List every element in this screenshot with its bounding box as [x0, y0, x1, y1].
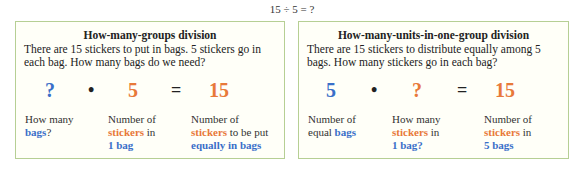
keyword-stickers: stickers: [484, 126, 520, 138]
label-line: stickers in: [392, 126, 441, 139]
label-line: Number of: [308, 113, 356, 126]
label-product: Number of stickers to be put equally in …: [191, 113, 268, 152]
keyword-1-bag: 1 bag?: [392, 139, 441, 152]
keyword-bags: bags: [335, 126, 356, 138]
product: 15: [209, 77, 229, 103]
label-line: stickers in: [484, 126, 532, 139]
label-factor-a: How many bags?: [25, 113, 74, 139]
keyword-5-bags: 5 bags: [484, 139, 532, 152]
equation-row: 5 • ? = 15: [299, 77, 568, 103]
equation-row: ? • 5 = 15: [16, 77, 284, 103]
product: 15: [495, 77, 515, 103]
label-factor-b: How many stickers in 1 bag?: [392, 113, 441, 152]
label-factor-b: Number of stickers in 1 bag: [108, 113, 156, 152]
label-line: stickers to be put: [191, 126, 268, 139]
how-many-groups-box: How-many-groups division There are 15 st…: [15, 21, 285, 159]
label-rest: in: [520, 126, 531, 138]
label-factor-a: Number of equal bags: [308, 113, 356, 139]
keyword-bags: bags: [25, 126, 46, 138]
label-line: bags?: [25, 126, 74, 139]
label-line: How many: [25, 113, 74, 126]
label-line: equal bags: [308, 126, 356, 139]
label-rest: in: [144, 126, 155, 138]
how-many-units-in-one-group-box: How-many-units-in-one-group division The…: [298, 21, 569, 159]
equals-sign: =: [171, 77, 181, 103]
keyword-stickers: stickers: [108, 126, 144, 138]
label-pre: equal: [308, 126, 335, 138]
label-line: Number of: [484, 113, 532, 126]
unknown-factor: ?: [412, 77, 422, 103]
label-line: stickers in: [108, 126, 156, 139]
equals-sign: =: [457, 77, 467, 103]
label-line: Number of: [191, 113, 268, 126]
known-factor: 5: [326, 77, 336, 103]
word-problem-text: There are 15 stickers to put in bags. 5 …: [24, 43, 284, 69]
keyword-1-bag: 1 bag: [108, 139, 156, 152]
label-product: Number of stickers in 5 bags: [484, 113, 532, 152]
word-problem-text: There are 15 stickers to distribute equa…: [307, 43, 568, 69]
label-line: Number of: [108, 113, 156, 126]
division-equation-header: 15 ÷ 5 = ?: [0, 3, 584, 15]
label-rest: ?: [46, 126, 51, 138]
keyword-stickers: stickers: [191, 126, 227, 138]
label-rest: to be put: [227, 126, 268, 138]
box-title: How-many-groups division: [16, 29, 284, 41]
unknown-factor: ?: [45, 77, 55, 103]
keyword-stickers: stickers: [392, 126, 428, 138]
multiply-dot: •: [88, 77, 94, 103]
multiply-dot: •: [371, 77, 377, 103]
box-title: How-many-units-in-one-group division: [299, 29, 568, 41]
label-rest: in: [428, 126, 439, 138]
label-line: How many: [392, 113, 441, 126]
known-factor: 5: [128, 77, 138, 103]
keyword-equally-in-bags: equally in bags: [191, 139, 268, 152]
